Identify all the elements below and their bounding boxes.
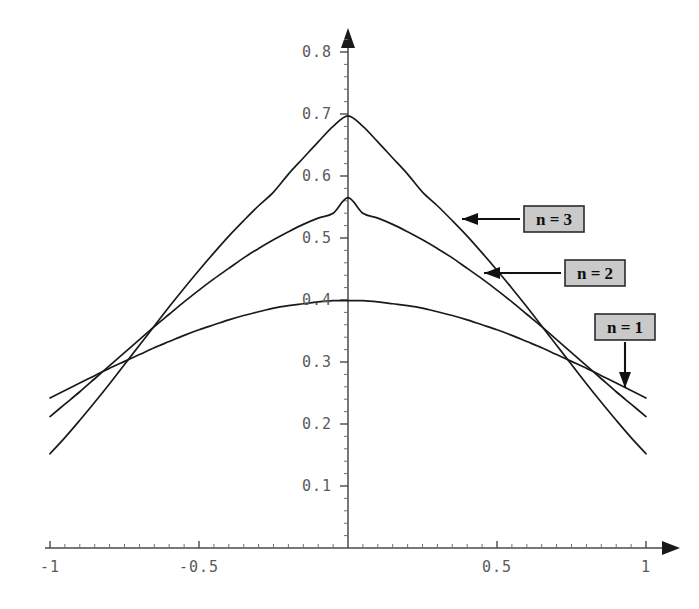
y-tick-label: 0.5 bbox=[302, 229, 332, 247]
annotation-label: n = 1 bbox=[607, 318, 643, 337]
x-tick-label: -1 bbox=[40, 558, 60, 576]
annotation-label: n = 3 bbox=[536, 210, 572, 229]
y-tick-label: 0.7 bbox=[302, 105, 332, 123]
y-tick-label: 0.8 bbox=[302, 43, 332, 61]
x-tick-label: -0.5 bbox=[179, 558, 219, 576]
tick-labels-group: -1-0.50.510.10.20.30.40.50.60.70.8 bbox=[40, 43, 651, 576]
x-tick-label: 0.5 bbox=[482, 558, 512, 576]
x-axis-arrow-icon bbox=[662, 541, 680, 555]
annotations-group: n = 3n = 2n = 1 bbox=[462, 206, 655, 388]
y-tick-label: 0.1 bbox=[302, 477, 332, 495]
y-tick-label: 0.3 bbox=[302, 353, 332, 371]
annotation-arrow-icon bbox=[462, 213, 478, 225]
annotation-n3[interactable]: n = 3 bbox=[462, 206, 584, 232]
axes-group bbox=[45, 28, 680, 555]
annotation-arrow-icon bbox=[484, 267, 500, 279]
annotation-n2[interactable]: n = 2 bbox=[484, 260, 625, 286]
x-tick-label: 1 bbox=[641, 558, 651, 576]
annotation-label: n = 2 bbox=[577, 264, 613, 283]
y-axis-arrow-icon bbox=[341, 28, 355, 48]
y-tick-label: 0.4 bbox=[302, 291, 332, 309]
figure-container: -1-0.50.510.10.20.30.40.50.60.70.8 n = 3… bbox=[0, 0, 699, 609]
y-tick-label: 0.2 bbox=[302, 415, 332, 433]
plot-canvas: -1-0.50.510.10.20.30.40.50.60.70.8 n = 3… bbox=[0, 0, 699, 609]
y-tick-label: 0.6 bbox=[302, 167, 332, 185]
